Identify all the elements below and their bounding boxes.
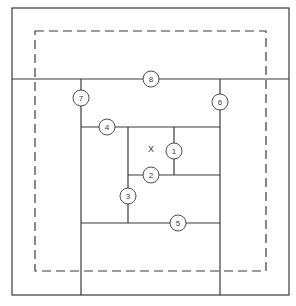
marker-8: 8 — [143, 71, 159, 87]
marker-label: 2 — [149, 171, 154, 180]
marker-7: 7 — [73, 90, 89, 106]
marker-label: 5 — [176, 219, 181, 228]
marker-label: 7 — [79, 94, 84, 103]
marker-3: 3 — [120, 188, 136, 204]
partition-diagram: 12345678 X — [0, 0, 296, 306]
marker-label: 4 — [105, 123, 110, 132]
marker-2: 2 — [143, 167, 159, 183]
marker-1: 1 — [166, 143, 182, 159]
center-label-x: X — [148, 144, 154, 154]
marker-4: 4 — [99, 119, 115, 135]
marker-label: 3 — [126, 192, 131, 201]
marker-5: 5 — [170, 215, 186, 231]
marker-label: 8 — [149, 75, 154, 84]
marker-6: 6 — [212, 94, 228, 110]
marker-label: 1 — [172, 147, 177, 156]
marker-label: 6 — [218, 98, 223, 107]
